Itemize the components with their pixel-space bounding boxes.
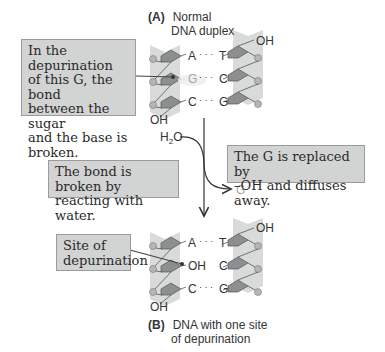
phosphate-icon [255, 78, 262, 85]
base-b-right-1: T [219, 236, 226, 250]
hbond-b-3: · · · [199, 282, 213, 292]
strand-a-left [150, 45, 207, 119]
terminal-oh-b-bottom: OH [150, 300, 168, 314]
base-b-left-1: A [188, 236, 196, 250]
base-a-left-1: A [188, 49, 196, 63]
base-b-left-2-oh: OH [188, 259, 206, 273]
callout-line: depurination [63, 254, 124, 269]
phosphate-icon [255, 55, 262, 62]
callout-depurination-bond: In the depurination of this G, the bond … [21, 39, 136, 116]
hbond-a-2: · · · [199, 72, 213, 82]
phosphate-icon [255, 289, 262, 296]
callout-line: Site of [63, 239, 124, 254]
hbond-a-3: · · · [199, 95, 213, 105]
phosphate-icon [150, 79, 157, 86]
terminal-oh-b-top: OH [256, 221, 274, 235]
callout-line: –OH and diffuses away. [234, 179, 358, 208]
callout-water: The bond is broken by reacting with wate… [48, 160, 179, 198]
phosphate-icon [150, 289, 157, 296]
phosphate-icon [150, 243, 157, 250]
callout-line: The G is replaced by [234, 150, 358, 179]
water-label: H2O [160, 130, 182, 146]
panel-b-label: (B)DNA with one site [148, 318, 267, 332]
base-b-left-3: C [188, 282, 197, 296]
hbond-a-1: · · · [199, 49, 213, 59]
phosphate-icon [255, 243, 262, 250]
callout-line: of this G, the bond [28, 73, 129, 102]
hbond-b-1: · · · [199, 236, 213, 246]
phosphate-icon [255, 266, 262, 273]
panel-b-letter: (B) [148, 318, 165, 332]
base-a-left-2-depurinated-g: G [188, 72, 197, 86]
panel-a-label: (A)Normal [148, 10, 211, 24]
callout-line: reacting with water. [55, 194, 172, 223]
base-a-right-2: C [219, 72, 228, 86]
callout-line: The bond is broken by [55, 165, 172, 194]
terminal-oh-a-bottom: OH [150, 113, 168, 127]
base-a-right-1: T [219, 49, 226, 63]
panel-a-title-line1: Normal [173, 10, 212, 24]
panel-b-title-line2: of depurination [171, 332, 250, 346]
callout-line: In the depurination [28, 44, 129, 73]
phosphate-icon [255, 101, 262, 108]
phosphate-icon [150, 102, 157, 109]
panel-a-letter: (A) [148, 10, 165, 24]
callout-line: and the base is [28, 131, 129, 146]
callout-line: between the sugar [28, 102, 129, 131]
base-a-right-3: G [219, 95, 228, 109]
base-b-right-2: C [219, 259, 228, 273]
callout-replaced: The G is replaced by –OH and diffuses aw… [227, 145, 365, 183]
callout-line: broken. [28, 146, 129, 161]
phosphate-icon [150, 56, 157, 63]
reaction-arrow [180, 118, 230, 215]
panel-b-title-line1: DNA with one site [173, 318, 268, 332]
base-b-right-3: G [219, 282, 228, 296]
panel-a-title-line2: DNA duplex [171, 24, 234, 38]
strand-b-left [150, 232, 187, 306]
phosphate-icon [150, 266, 157, 273]
callout-site: Site of depurination [56, 234, 131, 271]
terminal-oh-a-top: OH [256, 34, 274, 48]
base-a-left-3: C [188, 95, 197, 109]
